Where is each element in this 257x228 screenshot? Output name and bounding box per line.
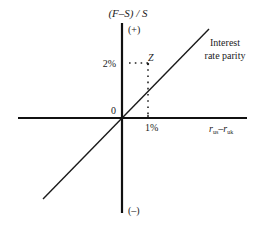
y-tick-2pct: 2% <box>103 58 116 69</box>
x-tick-1pct: 1% <box>145 122 158 133</box>
x-label-sub-uk: uk <box>227 129 233 135</box>
parity-label-line1: Interest <box>210 37 240 48</box>
negative-label: (–) <box>128 205 140 217</box>
interest-rate-parity-diagram: (F–S) / S (+) (–) 2% 0 Z 1% Interest rat… <box>0 0 257 228</box>
y-axis-label: (F–S) / S <box>108 7 148 20</box>
tick-1pct-marker <box>147 115 149 117</box>
x-axis-label: rus–ruk <box>209 123 233 135</box>
point-z-label: Z <box>148 52 154 63</box>
positive-label: (+) <box>128 24 140 36</box>
origin-label: 0 <box>111 105 116 116</box>
point-z-marker <box>147 63 149 65</box>
parity-line <box>43 29 209 199</box>
parity-label-line2: rate parity <box>205 50 246 61</box>
